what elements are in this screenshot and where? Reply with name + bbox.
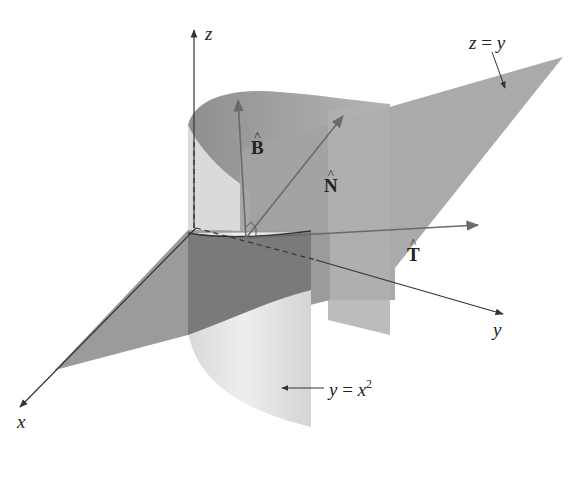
tnb-frame-diagram: z x y ^B ^N ^T z = y y = x2: [0, 0, 587, 485]
cylinder-equation-label: y = x2: [329, 378, 372, 399]
y-axis-label: y: [493, 320, 501, 339]
vector-N-label: ^N: [324, 176, 338, 195]
x-axis-label: x: [17, 412, 25, 431]
vector-T-label: ^T: [407, 245, 420, 264]
z-axis-label: z: [205, 24, 212, 43]
plane-equation-label: z = y: [469, 33, 505, 52]
cylinder-right-sheet: [328, 104, 390, 335]
diagram-canvas: [0, 0, 587, 485]
vector-B-label: ^B: [251, 138, 264, 157]
